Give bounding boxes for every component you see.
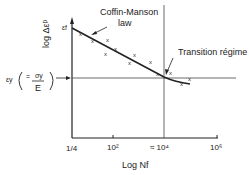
x-tick-1e6: 10⁶	[210, 144, 222, 152]
svg-text:x: x	[114, 46, 117, 52]
svg-text:x: x	[133, 52, 136, 58]
yield-strain-numerator: σy	[35, 72, 43, 79]
svg-text:x: x	[180, 81, 183, 87]
yield-strain-denominator: E	[35, 84, 41, 93]
svg-text:x: x	[91, 38, 94, 44]
x-tick-1e2: 10²	[107, 144, 119, 152]
x-tick-1e4: ≈ 10⁴	[150, 144, 169, 152]
transition-regime-label: Transition régime	[178, 48, 247, 57]
svg-text:x: x	[169, 70, 172, 76]
x-tick-quarter: 1/4	[66, 145, 77, 153]
yield-strain-equals: =	[26, 73, 30, 80]
svg-text:x: x	[104, 51, 107, 57]
svg-text:x: x	[188, 76, 191, 82]
coffin-manson-line	[72, 28, 190, 84]
svg-text:x: x	[156, 71, 159, 77]
svg-text:x: x	[106, 37, 109, 43]
svg-text:x: x	[79, 31, 82, 37]
coffin-manson-label-line1: Coffin-Manson	[100, 8, 158, 17]
y-axis-top-marker: εf	[62, 24, 67, 31]
x-axis-label: Log Nf	[122, 161, 149, 170]
svg-text:x: x	[149, 59, 152, 65]
coffin-manson-label-line2: law	[118, 19, 132, 28]
y-axis-arrow	[70, 17, 74, 24]
y-axis-label: log Δεᵖ	[42, 20, 51, 48]
svg-text:x: x	[128, 60, 131, 66]
data-markers: x x x x x x x x x x x x	[79, 31, 191, 87]
yield-strain-symbol: εy	[6, 76, 13, 83]
